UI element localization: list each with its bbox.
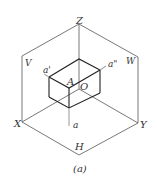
x-axis — [22, 89, 79, 122]
origin-label: O — [80, 81, 88, 92]
box-top-face — [49, 59, 100, 88]
projection-diagram: Z V W a' a" A O X Y a H (a) — [0, 0, 157, 191]
label-a-double-prime: a" — [108, 59, 118, 69]
y-axis — [79, 89, 138, 123]
axis-label-x: X — [13, 118, 22, 129]
point-label-a: A — [66, 76, 74, 87]
axes — [22, 24, 138, 123]
box-bottom-edges — [49, 93, 100, 108]
projector-a-double-prime — [100, 66, 106, 70]
plane-label-h: H — [74, 141, 84, 152]
plane-label-w: W — [126, 56, 136, 66]
plane-w-outline — [79, 24, 138, 123]
label-a-prime: a' — [43, 65, 51, 75]
axis-label-z: Z — [75, 15, 84, 26]
box — [49, 59, 100, 108]
label-a: a — [73, 120, 78, 130]
figure-caption: (a) — [73, 163, 87, 174]
axis-label-y: Y — [140, 119, 148, 130]
plane-label-v: V — [25, 58, 33, 68]
